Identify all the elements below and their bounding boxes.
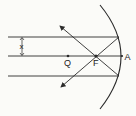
point-q-dot	[67, 55, 70, 58]
pole-label: A	[125, 52, 131, 62]
concave-mirror	[100, 5, 121, 109]
mirror-diagram: x Q F A	[0, 0, 136, 116]
pole-dot	[121, 55, 123, 57]
upper-reflected-ray	[60, 26, 119, 76]
separation-label: x	[20, 42, 24, 51]
point-q-label: Q	[64, 58, 71, 68]
focus-label: F	[93, 58, 99, 68]
